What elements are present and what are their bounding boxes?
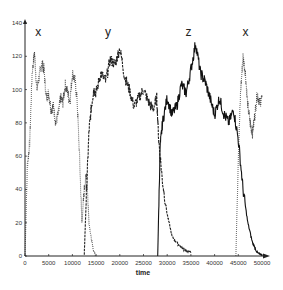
x-tick-label: 5000 <box>42 260 56 266</box>
annotations: xyzx <box>35 25 248 39</box>
x-tick-label: 40000 <box>206 260 223 266</box>
y-tick-label: 0 <box>19 253 23 259</box>
y-tick-label: 120 <box>12 53 23 59</box>
y-tick-label: 40 <box>15 186 22 192</box>
y-tick-label: 100 <box>12 87 23 93</box>
series-z-line <box>158 42 262 256</box>
x-tick-label: 25000 <box>135 260 152 266</box>
x-tick-label: 15000 <box>88 260 105 266</box>
x-tick-label: 45000 <box>230 260 247 266</box>
x-axis-label: time <box>136 269 151 276</box>
series-label-x: x <box>242 25 248 39</box>
x-tick-label: 20000 <box>111 260 128 266</box>
series-y-line <box>84 48 191 255</box>
series-label-z: z <box>186 25 192 39</box>
plot-area <box>25 42 262 256</box>
y-tick-label: 60 <box>15 153 22 159</box>
x-tick-label: 50000 <box>254 260 271 266</box>
x-tick-label: 30000 <box>159 260 176 266</box>
y-tick-label: 80 <box>15 120 22 126</box>
x-axis-arrow-icon <box>263 254 270 259</box>
chart: 0500010000150002000025000300003500040000… <box>0 0 283 290</box>
x-tick-label: 0 <box>23 260 27 266</box>
x-tick-label: 10000 <box>64 260 81 266</box>
series-label-x: x <box>35 25 41 39</box>
y-tick-label: 140 <box>12 20 23 26</box>
x-tick-label: 35000 <box>183 260 200 266</box>
y-tick-label: 20 <box>15 220 22 226</box>
series-label-y: y <box>105 25 111 39</box>
axes <box>23 19 270 259</box>
